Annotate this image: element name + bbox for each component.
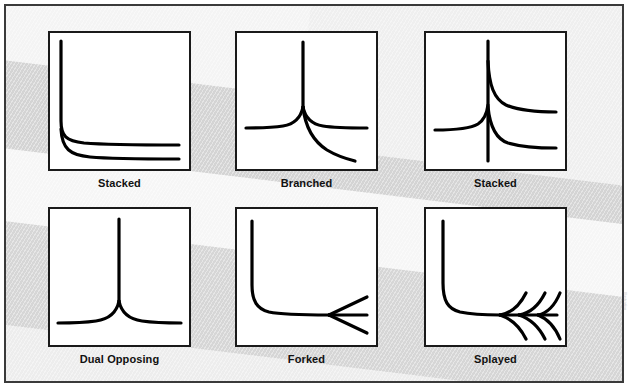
curve-splay-up-3 bbox=[538, 293, 560, 315]
panel-box bbox=[48, 31, 191, 171]
diagram-dual-opposing bbox=[50, 209, 189, 345]
panel-box bbox=[424, 207, 567, 347]
figure-credit-text: Illustration bbox=[620, 292, 630, 378]
curve-upper bbox=[61, 41, 179, 145]
diagram-stacked-1 bbox=[50, 33, 189, 169]
figure-root: Stacked Branched bbox=[0, 0, 632, 387]
curve-descending-branch bbox=[303, 107, 355, 161]
curve-main-trunk bbox=[443, 221, 500, 315]
curve-left-incoming bbox=[435, 105, 488, 130]
curve-main-trunk bbox=[252, 221, 329, 315]
panel-grid: Stacked Branched bbox=[0, 0, 632, 387]
panel-label: Splayed bbox=[424, 353, 567, 365]
panel-box bbox=[424, 31, 567, 171]
curve-splay-up-1 bbox=[500, 293, 526, 315]
panel-label: Stacked bbox=[424, 177, 567, 189]
diagram-forked bbox=[237, 209, 376, 345]
curve-right-upper bbox=[488, 61, 556, 112]
curve-fork-upper bbox=[329, 297, 367, 315]
diagram-branched bbox=[237, 33, 376, 169]
panel-box bbox=[235, 31, 378, 171]
diagram-stacked-2 bbox=[426, 33, 565, 169]
panel-label: Dual Opposing bbox=[48, 353, 191, 365]
panel-box bbox=[235, 207, 378, 347]
panel-label: Stacked bbox=[48, 177, 191, 189]
curve-right-branch bbox=[119, 301, 181, 323]
panel-label: Forked bbox=[235, 353, 378, 365]
curve-right-branch bbox=[303, 107, 367, 128]
panel-label: Branched bbox=[235, 177, 378, 189]
diagram-splayed bbox=[426, 209, 565, 345]
panel-box bbox=[48, 207, 191, 347]
curve-splay-down-1 bbox=[500, 315, 526, 339]
curve-fork-lower bbox=[329, 315, 367, 333]
curve-left-branch bbox=[246, 107, 303, 128]
curve-left-branch bbox=[58, 301, 119, 323]
